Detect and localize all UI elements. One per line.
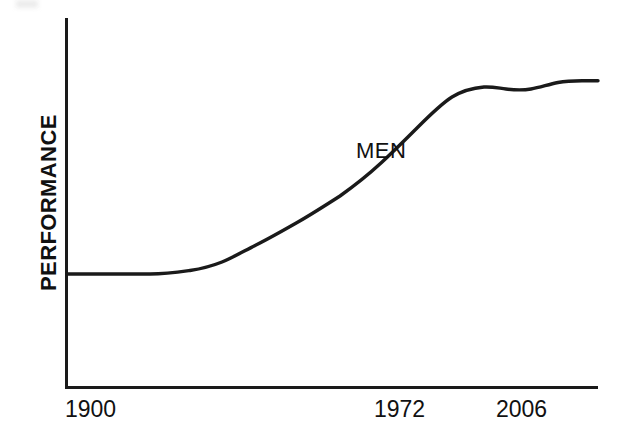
series-line-men	[67, 81, 598, 274]
series-label-men: MEN	[356, 140, 406, 162]
x-tick-label-2006: 2006	[496, 398, 547, 421]
chart-figure: PERFORMANCE MEN 1900 1972 2006	[0, 0, 635, 443]
x-tick-label-1900: 1900	[65, 398, 116, 421]
x-tick-label-1972: 1972	[374, 398, 425, 421]
line-chart-plot	[0, 0, 635, 443]
